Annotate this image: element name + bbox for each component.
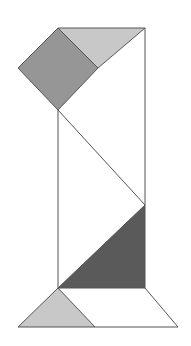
figure-canvas (0, 0, 191, 346)
shape-faces-group (18, 28, 178, 327)
geometric-figure (0, 0, 191, 346)
